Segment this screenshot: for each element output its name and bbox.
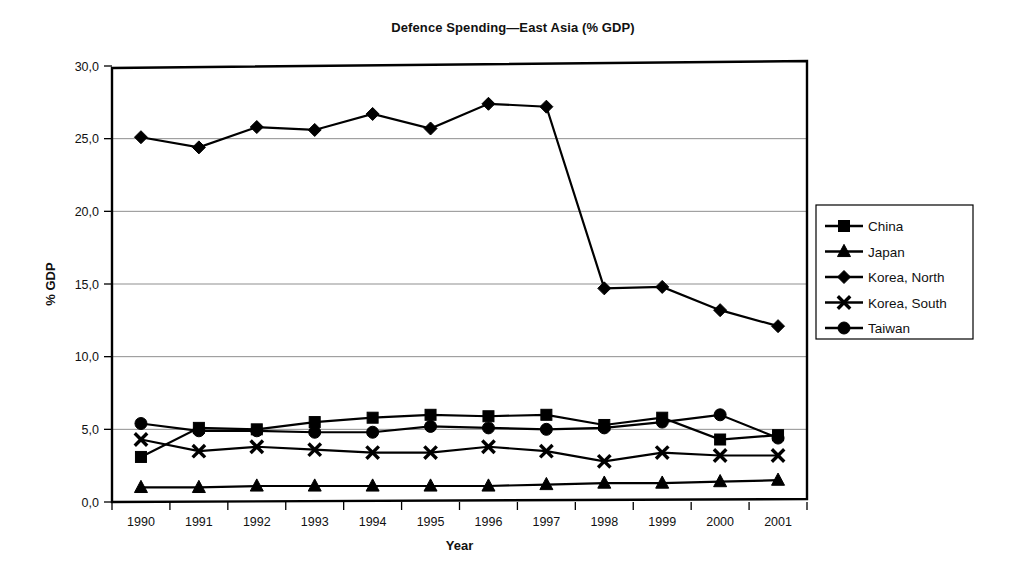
data-point-marker-square (541, 409, 552, 420)
data-point-marker-diamond (308, 123, 321, 136)
data-point-marker-diamond (772, 320, 785, 333)
data-point-marker-circle (425, 420, 437, 432)
data-point-marker-circle (193, 425, 205, 437)
x-tick-label: 1999 (648, 515, 676, 529)
series-line (141, 440, 778, 462)
x-axis-ticks: 1990199119921993199419951996199719981999… (112, 502, 807, 529)
data-point-marker-diamond (714, 304, 727, 317)
y-axis-ticks: 0,05,010,015,020,025,030,0 (75, 60, 112, 510)
data-point-marker-circle (838, 322, 850, 334)
data-point-marker-circle (367, 426, 379, 438)
x-tick-label: 1993 (301, 515, 329, 529)
x-axis-label: Year (446, 538, 473, 553)
x-tick-label: 1990 (127, 515, 155, 529)
data-point-marker-circle (598, 422, 610, 434)
gridlines-group (112, 139, 807, 430)
data-point-marker-diamond (540, 100, 553, 113)
x-tick-label: 2000 (706, 515, 734, 529)
legend-label: Korea, South (868, 296, 947, 311)
series-korea-south (135, 433, 784, 467)
plot-frame (112, 61, 807, 502)
series-japan (134, 473, 784, 492)
data-point-marker-circle (714, 409, 726, 421)
y-tick-label: 20,0 (75, 205, 99, 219)
plot-border (112, 61, 807, 502)
chart-figure: Defence Spending—East Asia (% GDP) 0,05,… (0, 0, 1026, 566)
series-line (141, 480, 778, 487)
x-tick-label: 1994 (359, 515, 387, 529)
data-point-marker-circle (251, 425, 263, 437)
data-point-marker-circle (135, 418, 147, 430)
chart-legend: ChinaJapanKorea, NorthKorea, SouthTaiwan (816, 205, 973, 339)
data-point-marker-square (367, 412, 378, 423)
y-tick-label: 5,0 (82, 423, 99, 437)
x-tick-label: 1997 (532, 515, 560, 529)
data-series-group (134, 97, 784, 492)
x-tick-label: 2001 (764, 515, 792, 529)
y-tick-label: 10,0 (75, 350, 99, 364)
y-tick-label: 25,0 (75, 132, 99, 146)
y-axis-label: % GDP (43, 262, 58, 306)
data-point-marker-circle (656, 416, 668, 428)
y-tick-label: 30,0 (75, 60, 99, 74)
data-point-marker-circle (482, 422, 494, 434)
line-chart-plot: 0,05,010,015,020,025,030,0 1990199119921… (0, 0, 1026, 566)
data-point-marker-diamond (366, 107, 379, 120)
x-tick-label: 1991 (185, 515, 213, 529)
x-tick-label: 1992 (243, 515, 271, 529)
data-point-marker-diamond (424, 122, 437, 135)
data-point-marker-square (839, 221, 850, 232)
legend-label: Korea, North (868, 270, 945, 285)
series-line (141, 104, 778, 326)
data-point-marker-square (135, 451, 146, 462)
y-tick-label: 15,0 (75, 278, 99, 292)
x-tick-label: 1996 (475, 515, 503, 529)
data-point-marker-diamond (482, 97, 495, 110)
data-point-marker-square (483, 411, 494, 422)
data-point-marker-triangle (772, 473, 785, 485)
data-point-marker-diamond (656, 280, 669, 293)
data-point-marker-diamond (250, 121, 263, 134)
data-point-marker-square (715, 434, 726, 445)
data-point-marker-diamond (192, 141, 205, 154)
legend-label: Japan (868, 245, 905, 260)
y-tick-label: 0,0 (82, 496, 99, 510)
data-point-marker-diamond (134, 131, 147, 144)
data-point-marker-circle (772, 432, 784, 444)
x-tick-label: 1995 (417, 515, 445, 529)
legend-item-korea-north[interactable]: Korea, North (825, 270, 945, 285)
legend-label: China (868, 219, 904, 234)
data-point-marker-square (425, 409, 436, 420)
x-tick-label: 1998 (590, 515, 618, 529)
data-point-marker-circle (540, 423, 552, 435)
data-point-marker-circle (309, 426, 321, 438)
legend-label: Taiwan (868, 321, 910, 336)
series-korea-north (134, 97, 784, 332)
